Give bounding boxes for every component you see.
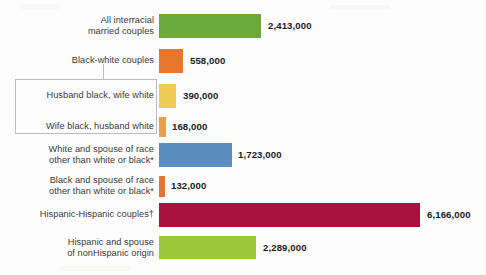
- bar-label: Husband black, wife white: [4, 90, 154, 101]
- bar-rect: [159, 143, 232, 167]
- bar-label: Hispanic and spouse of nonHispanic origi…: [4, 237, 154, 259]
- bar-label: Black-white couples: [4, 55, 154, 66]
- bar-value-label: 2,413,000: [268, 20, 312, 31]
- bar-label: All interracial married couples: [4, 15, 154, 37]
- bar-label: Hispanic-Hispanic couples†: [4, 209, 154, 220]
- bar-rect: [159, 176, 165, 197]
- bar-chart: All interracial married couples 2,413,00…: [0, 0, 486, 275]
- bar-value-label: 1,723,000: [238, 149, 282, 160]
- bar-rect: [159, 84, 176, 108]
- bar-label: Wife black, husband white: [4, 121, 154, 132]
- bar-value-label: 558,000: [190, 55, 225, 66]
- bar-rect: [159, 14, 261, 38]
- bar-value-label: 2,289,000: [263, 242, 307, 253]
- bar-label: Black and spouse of race other than whit…: [4, 175, 154, 197]
- bar-value-label: 6,166,000: [427, 209, 471, 220]
- bar-value-label: 132,000: [171, 180, 206, 191]
- bar-label: White and spouse of race other than whit…: [4, 144, 154, 166]
- bar-rect: [159, 236, 256, 259]
- bar-value-label: 390,000: [183, 90, 218, 101]
- bar-value-label: 168,000: [172, 121, 207, 132]
- bar-rect: [159, 203, 420, 227]
- bar-rect: [159, 49, 183, 73]
- scan-artifact: [60, 266, 130, 271]
- bracket-connector-line: [103, 64, 104, 80]
- bar-rect: [159, 117, 166, 137]
- scan-artifact: [20, 4, 60, 9]
- scan-artifact: [330, 5, 390, 9]
